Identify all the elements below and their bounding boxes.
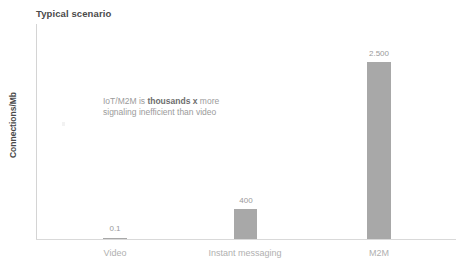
- annotation-suffix: more: [197, 96, 219, 106]
- x-tick-label-instant-messaging: Instant messaging: [185, 248, 305, 258]
- bar-chart-figure: Typical scenario Connections/Mb 0.1 400 …: [0, 0, 466, 270]
- bar-value-label-m2m: 2.500: [357, 49, 401, 58]
- x-tick-label-video: Video: [65, 248, 165, 258]
- annotation-emphasis: thousands x: [147, 96, 197, 106]
- annotation-line-1: IoT/M2M is thousands x more: [103, 96, 263, 107]
- bar-m2m: [367, 62, 391, 239]
- bar-value-label-video: 0.1: [95, 224, 135, 233]
- bar-instant-messaging: [234, 209, 257, 239]
- chart-title: Typical scenario: [36, 8, 111, 19]
- y-axis-label: Connections/Mb: [8, 85, 18, 165]
- plot-area: 0.1 400 2.500: [37, 24, 456, 239]
- annotation-line-2: signaling inefficient than video: [103, 107, 263, 118]
- x-axis-line: [36, 239, 456, 240]
- bar-video: [103, 238, 127, 240]
- x-tick-label-m2m: M2M: [329, 248, 429, 258]
- efficiency-annotation: IoT/M2M is thousands x more signaling in…: [103, 96, 263, 118]
- annotation-prefix: IoT/M2M is: [103, 96, 147, 106]
- bar-value-label-instant-messaging: 400: [226, 196, 266, 205]
